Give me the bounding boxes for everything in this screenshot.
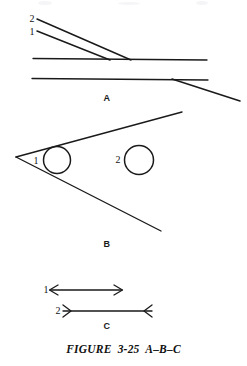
panel-a-branch-lower: [172, 79, 240, 101]
panel-b-label-1: 1: [30, 156, 42, 166]
panel-c-label-2: 2: [52, 306, 64, 316]
panel-a-horizontal-lower: [32, 79, 208, 81]
panel-c-label-1: 1: [40, 285, 52, 295]
figure-3-25: 2 1 1 2 1 2 A B C FIGURE 3-25 A–B–C: [0, 0, 247, 366]
panel-letter-c: C: [99, 322, 115, 331]
scan-artifact: [38, 1, 52, 5]
panel-a-label-2: 2: [26, 14, 38, 24]
figure-line-art: [0, 0, 247, 366]
panel-a-lines: [32, 19, 240, 101]
panel-b-wedge-lower: [16, 157, 161, 231]
panel-b-circle-1: [44, 147, 71, 174]
panel-a-label-1: 1: [26, 27, 38, 37]
scan-artifact: [196, 1, 208, 5]
panel-b-lines: [16, 112, 182, 231]
panel-b-wedge-upper: [16, 112, 182, 157]
figure-caption: FIGURE 3-25 A–B–C: [0, 343, 247, 355]
panel-c-dimension-lines: [50, 285, 153, 317]
panel-b-circle-2: [125, 146, 154, 175]
scan-artifact: [118, 2, 140, 5]
panel-a-horizontal-upper: [33, 59, 207, 61]
panel-letter-a: A: [99, 94, 115, 103]
panel-b-label-2: 2: [112, 155, 124, 165]
panel-letter-b: B: [99, 240, 115, 249]
panel-a-ray-2: [37, 19, 131, 60]
